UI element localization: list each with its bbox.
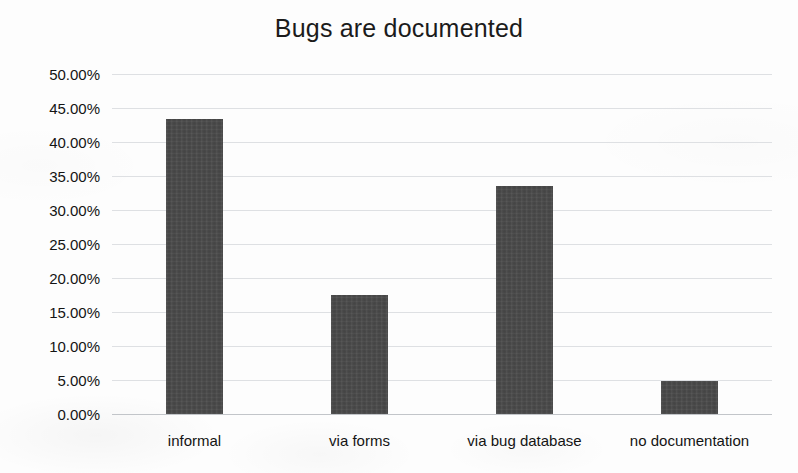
y-axis-tick-label: 30.00% [49, 202, 100, 219]
gridline [112, 108, 772, 109]
x-axis-tick-label: no documentation [630, 432, 749, 449]
bar [166, 119, 223, 414]
x-axis-tick-label: via forms [329, 432, 390, 449]
x-axis-tick-label: informal [168, 432, 221, 449]
bar [661, 381, 718, 414]
bar [496, 186, 553, 414]
y-axis: 0.00%5.00%10.00%15.00%20.00%25.00%30.00%… [0, 0, 108, 473]
y-axis-tick-label: 40.00% [49, 134, 100, 151]
y-axis-tick-label: 10.00% [49, 338, 100, 355]
y-axis-tick-label: 20.00% [49, 270, 100, 287]
y-axis-tick-label: 15.00% [49, 304, 100, 321]
gridline [112, 414, 772, 415]
chart-title: Bugs are documented [0, 14, 798, 43]
bar [331, 295, 388, 414]
x-axis: informalvia formsvia bug databaseno docu… [112, 432, 772, 462]
bar-chart: Bugs are documented 0.00%5.00%10.00%15.0… [0, 0, 798, 473]
y-axis-tick-label: 25.00% [49, 236, 100, 253]
y-axis-tick-label: 0.00% [57, 406, 100, 423]
y-axis-tick-label: 5.00% [57, 372, 100, 389]
plot-area [112, 74, 772, 414]
y-axis-tick-label: 50.00% [49, 66, 100, 83]
y-axis-tick-label: 35.00% [49, 168, 100, 185]
x-axis-tick-label: via bug database [467, 432, 581, 449]
gridline [112, 74, 772, 75]
y-axis-tick-label: 45.00% [49, 100, 100, 117]
